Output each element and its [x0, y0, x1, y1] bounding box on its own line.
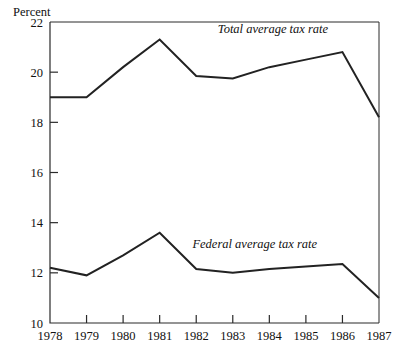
x-tick-label: 1980 — [111, 329, 136, 343]
y-tick-label: 20 — [31, 66, 44, 80]
y-tick-label: 14 — [31, 216, 44, 230]
x-tick-label: 1986 — [330, 329, 355, 343]
x-tick-label: 1984 — [257, 329, 283, 343]
y-tick-label: 18 — [31, 116, 44, 130]
x-tick-group: 1978197919801981198219831984198519861987 — [38, 315, 392, 343]
line-chart-svg: Percent 10121416182022 19781979198019811… — [0, 0, 402, 349]
series-label-federal: Federal average tax rate — [191, 237, 317, 251]
y-tick-group: 10121416182022 — [31, 16, 59, 331]
x-tick-label: 1981 — [147, 329, 172, 343]
series-group — [50, 40, 379, 298]
y-tick-label: 16 — [31, 166, 44, 180]
x-tick-label: 1983 — [220, 329, 245, 343]
annotation-group: Total average tax rateFederal average ta… — [191, 22, 328, 250]
x-tick-label: 1982 — [184, 329, 209, 343]
y-tick-label: 22 — [31, 16, 44, 30]
series-line-total — [50, 40, 379, 118]
plot-axes — [50, 22, 379, 323]
series-label-total: Total average tax rate — [218, 22, 329, 36]
x-tick-label: 1987 — [367, 329, 392, 343]
x-tick-label: 1978 — [38, 329, 63, 343]
x-tick-label: 1979 — [74, 329, 99, 343]
y-tick-label: 12 — [31, 266, 44, 280]
x-tick-label: 1985 — [293, 329, 318, 343]
chart-container: Percent 10121416182022 19781979198019811… — [0, 0, 402, 349]
axis-frame-right-top — [50, 22, 379, 323]
axis-lines — [50, 22, 379, 323]
